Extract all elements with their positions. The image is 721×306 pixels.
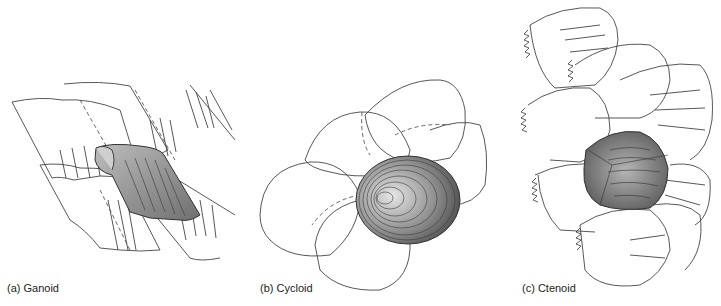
ganoid-scale-illustration <box>0 0 240 306</box>
panel-cycloid: (b) Cycloid <box>250 0 490 306</box>
cycloid-scale-illustration <box>250 0 490 306</box>
caption-ganoid: (a) Ganoid <box>7 282 59 294</box>
ctenoid-scale-illustration <box>500 0 721 306</box>
caption-cycloid: (b) Cycloid <box>260 282 313 294</box>
panel-ganoid: (a) Ganoid <box>0 0 240 306</box>
caption-ctenoid: (c) Ctenoid <box>522 282 576 294</box>
panel-ctenoid: (c) Ctenoid <box>500 0 721 306</box>
